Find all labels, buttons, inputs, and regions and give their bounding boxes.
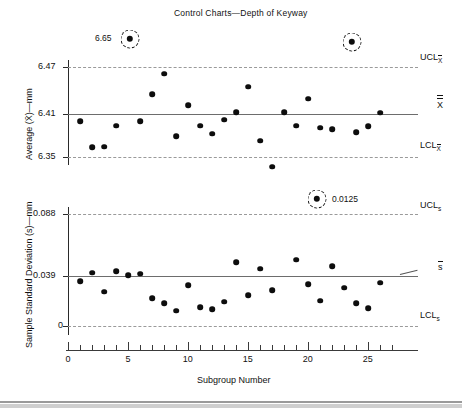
footer-rule-top (0, 401, 462, 403)
data-point (269, 288, 275, 294)
x-major-tick (248, 342, 249, 350)
s-ucl-line (68, 214, 418, 215)
data-point (305, 96, 311, 102)
xbar-lcl-label-sub: X (437, 145, 441, 152)
xbar-ucl-label-sub: X (438, 56, 442, 64)
data-point (233, 109, 239, 115)
data-point (305, 281, 311, 287)
data-point (317, 298, 323, 304)
x-minor-tick (320, 345, 321, 350)
xbar-ucl-label: UCLX (420, 52, 442, 64)
xbar-y-axis-line (68, 60, 69, 165)
x-axis-title: Subgroup Number (197, 375, 271, 385)
s-ucl-label-text: UCL (420, 200, 438, 210)
xbar-y-axis-label: Average (X̄)—mm (24, 88, 34, 160)
data-point (365, 305, 371, 311)
data-point (293, 123, 299, 129)
x-minor-tick (104, 345, 105, 350)
x-minor-tick (140, 345, 141, 350)
s-lcl-label-text: LCL (420, 310, 437, 320)
xbar-outlier-annotation: 6.65 (95, 33, 112, 43)
data-point (161, 300, 167, 306)
x-axis-line (66, 350, 418, 351)
data-point (329, 263, 335, 269)
data-point (233, 260, 239, 266)
data-point (125, 272, 131, 278)
s-center-line (68, 276, 418, 277)
x-tick-label: 10 (183, 354, 193, 364)
x-tick-label: 20 (303, 354, 313, 364)
data-point (149, 295, 155, 301)
figure-title: Control Charts—Depth of Keyway (174, 8, 308, 18)
x-minor-tick (296, 345, 297, 350)
data-point (101, 144, 107, 150)
xbar-center-label-text: X (437, 100, 443, 110)
data-point (257, 138, 263, 144)
xbar-lcl-line (68, 157, 418, 158)
data-point (293, 257, 299, 263)
data-point (113, 123, 119, 129)
xbar-lcl-label-text: LCL (420, 140, 437, 150)
xbar-center-label: X (437, 100, 443, 110)
data-point (245, 293, 251, 299)
s-center-label-text: s (438, 262, 443, 272)
x-minor-tick (200, 345, 201, 350)
data-point (77, 118, 83, 124)
data-point (173, 308, 179, 314)
s-lcl-label: LCLs (420, 310, 440, 322)
data-point (137, 118, 143, 124)
data-point (269, 164, 275, 170)
data-point (341, 285, 347, 291)
x-tick-label: 15 (243, 354, 253, 364)
data-point (89, 270, 95, 276)
x-minor-tick (176, 345, 177, 350)
x-minor-tick (80, 345, 81, 350)
xbar-ytick-641: 6.41 (38, 108, 56, 118)
x-minor-tick (92, 345, 93, 350)
s-ucl-label-sub: s (438, 205, 441, 212)
x-tick-label: 0 (65, 354, 70, 364)
s-center-label: s (438, 262, 443, 272)
data-point (197, 123, 203, 129)
x-tick-label: 5 (125, 354, 130, 364)
x-major-tick (188, 342, 189, 350)
data-point (137, 271, 143, 277)
s-lcl-label-sub: s (437, 315, 440, 322)
data-point (245, 84, 251, 90)
data-point (185, 102, 191, 108)
data-point (101, 289, 107, 295)
data-point (209, 131, 215, 137)
xbar-lcl-label: LCLX (420, 140, 441, 152)
x-minor-tick (332, 345, 333, 350)
s-ytick-0039: 0.039 (33, 270, 56, 280)
data-point (353, 300, 359, 306)
x-major-tick (68, 342, 69, 350)
s-lcl-line (68, 326, 418, 327)
data-point (209, 307, 215, 313)
xbar-ucl-line (68, 67, 418, 68)
data-point (149, 91, 155, 97)
xbar-ytick-635: 6.35 (38, 151, 56, 161)
x-minor-tick (356, 345, 357, 350)
x-minor-tick (152, 345, 153, 350)
control-chart-figure: Control Charts—Depth of Keyway Average (… (0, 0, 462, 414)
s-ytick-0: 0 (58, 320, 63, 330)
data-point (221, 299, 227, 305)
data-point (317, 125, 323, 131)
s-ytick-0088: 0.088 (33, 208, 56, 218)
s-center-pointer (400, 270, 418, 275)
x-tick-label: 25 (363, 354, 373, 364)
s-y-axis-line (68, 207, 69, 335)
x-minor-tick (260, 345, 261, 350)
data-point (257, 266, 263, 272)
x-minor-tick (224, 345, 225, 350)
s-outlier-annotation: 0.0125 (332, 194, 358, 204)
xbar-ucl-label-text: UCL (420, 52, 438, 62)
data-point (173, 133, 179, 139)
x-minor-tick (164, 345, 165, 350)
xbar-y-axis-label-text: Average (X̄)—mm (24, 88, 34, 160)
xbar-ytick-647: 6.47 (38, 61, 56, 71)
data-point (221, 117, 227, 123)
data-point (161, 71, 167, 77)
data-point (185, 282, 191, 288)
